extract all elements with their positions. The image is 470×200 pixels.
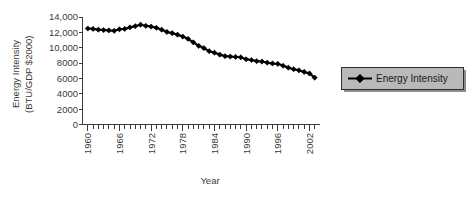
series-data-point <box>85 26 90 31</box>
series-data-point <box>154 25 159 30</box>
x-axis-tick-label: 1984 <box>209 133 220 154</box>
series-data-point <box>149 24 154 29</box>
series-data-point <box>296 68 301 73</box>
series-data-point <box>175 32 180 37</box>
series-data-point <box>280 63 285 68</box>
x-axis-tick-label: 2002 <box>304 133 315 154</box>
y-axis-title-line1: Energy Intensity <box>10 40 21 108</box>
y-axis-tick-label: 0 <box>73 119 78 130</box>
series-data-point <box>270 61 275 66</box>
x-axis-tick-labels: 19601966197219781984199019962002 <box>82 133 315 154</box>
x-axis-title: Year <box>200 175 219 186</box>
legend-entry-label: Energy Intensity <box>376 73 448 84</box>
series-data-point <box>238 55 243 60</box>
y-axis-tick-label: 2000 <box>57 104 78 115</box>
series-data-point <box>90 26 95 31</box>
y-axis-tick-labels: 14,00012,00010,00080006000400020000 <box>49 11 78 129</box>
x-axis-tick-marks <box>88 125 315 131</box>
y-axis-tick-label: 10,000 <box>49 42 78 53</box>
x-axis-tick-label: 1960 <box>82 133 93 154</box>
series-data-point <box>249 57 254 62</box>
x-axis-tick-label: 1990 <box>241 133 252 154</box>
y-axis-tick-label: 8000 <box>57 57 78 68</box>
series-data-point <box>127 25 132 30</box>
y-axis-tick-label: 4000 <box>57 88 78 99</box>
y-axis-tick-label: 14,000 <box>49 11 78 22</box>
legend[interactable]: Energy Intensity <box>342 68 467 93</box>
x-axis-tick-label: 1978 <box>177 133 188 154</box>
series-data-point <box>106 28 111 33</box>
series-data-point <box>291 67 296 72</box>
series-data-point <box>286 65 291 70</box>
data-series-group <box>85 22 317 80</box>
series-data-point <box>275 61 280 66</box>
series-data-point <box>244 57 249 62</box>
x-axis-tick-label: 1972 <box>146 133 157 154</box>
series-data-point <box>133 24 138 29</box>
series-data-point <box>222 54 227 59</box>
series-data-point <box>217 52 222 57</box>
y-axis-tick-label: 6000 <box>57 73 78 84</box>
x-axis-tick-label: 1966 <box>114 133 125 154</box>
energy-intensity-chart: Energy Intensity (BTU/GDP $2000) 14,0001… <box>0 0 470 200</box>
series-data-point <box>101 27 106 32</box>
series-data-point <box>143 23 148 28</box>
series-data-point <box>96 27 101 32</box>
series-data-point <box>138 22 143 27</box>
series-data-point <box>265 60 270 65</box>
x-axis-tick-label: 1996 <box>272 133 283 154</box>
series-data-point <box>212 50 217 55</box>
series-data-point <box>302 69 307 74</box>
y-axis-title-line2: (BTU/GDP $2000) <box>23 36 34 113</box>
series-data-point <box>228 54 233 59</box>
series-data-point <box>117 27 122 32</box>
series-line-energy-intensity <box>88 25 315 78</box>
series-data-point <box>259 59 264 64</box>
series-data-point <box>112 28 117 33</box>
y-axis-tick-label: 12,000 <box>49 27 78 38</box>
y-axis-title-group: Energy Intensity (BTU/GDP $2000) <box>10 36 34 113</box>
y-axis-tick-marks <box>79 17 83 125</box>
series-data-point <box>254 59 259 64</box>
series-data-point <box>122 26 127 31</box>
chart-canvas: Energy Intensity (BTU/GDP $2000) 14,0001… <box>0 0 470 200</box>
series-data-point <box>170 31 175 36</box>
series-data-point <box>233 54 238 59</box>
